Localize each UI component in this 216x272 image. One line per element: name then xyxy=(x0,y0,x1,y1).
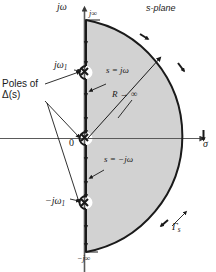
s-plane-nyquist-contour-figure: s-plane jω j∞ jω1 s = jω R → ∞ Poles of … xyxy=(0,0,216,272)
real-axis-label: σ xyxy=(203,139,208,150)
poles-annotation: Poles of Δ(s) xyxy=(2,79,38,100)
minus-jomega1-leader-line xyxy=(70,199,79,201)
minus-j-omega-1-subscript: 1 xyxy=(62,200,66,208)
minus-j-omega-1-label-text: −jω xyxy=(45,195,62,206)
contour-label-subscript: s xyxy=(178,226,181,234)
s-plane-title: s-plane xyxy=(146,4,176,13)
j-omega-1-subscript: 1 xyxy=(64,64,68,72)
j-omega-1-label-text: jω xyxy=(54,59,64,70)
origin-label: 0 xyxy=(69,138,74,149)
contour-shaded-region xyxy=(86,20,182,252)
radius-label: R → ∞ xyxy=(112,90,137,99)
poles-annotation-line2: Δ(s) xyxy=(2,90,38,101)
j-omega-1-label: jω1 xyxy=(54,60,67,73)
imaginary-axis-label: jω xyxy=(57,2,67,13)
poles-annotation-line1: Poles of xyxy=(2,78,38,89)
contour-diagram-canvas xyxy=(0,0,216,272)
minus-j-infinity-label: −j∞ xyxy=(77,255,90,263)
j-infinity-label: j∞ xyxy=(89,10,97,18)
s-equals-minus-jomega-label: s = −jω xyxy=(104,155,133,164)
contour-label: Γs xyxy=(172,222,181,235)
s-equals-jomega-label: s = jω xyxy=(106,66,129,75)
minus-j-omega-1-label: −jω1 xyxy=(45,196,65,209)
